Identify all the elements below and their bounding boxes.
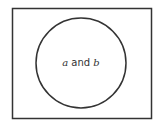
label-conjunction: and: [68, 57, 93, 68]
venn-diagram: a and b: [0, 0, 159, 127]
circle-label: a and b: [62, 57, 100, 68]
label-var-b: b: [93, 57, 99, 68]
